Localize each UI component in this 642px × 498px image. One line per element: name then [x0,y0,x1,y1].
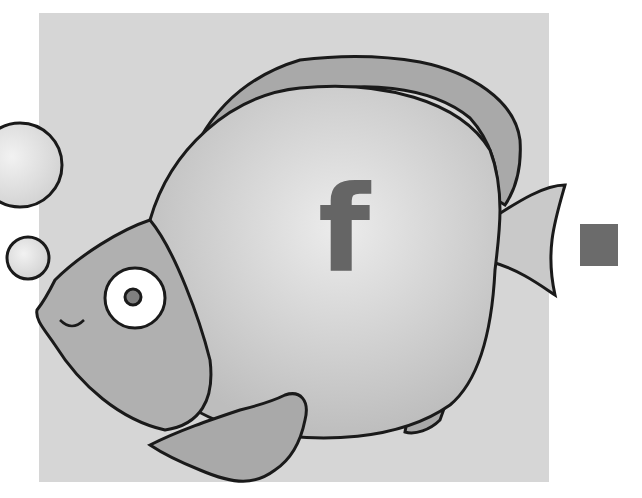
letter-f: f [318,170,370,290]
marker-square [580,224,618,266]
fish-eye [105,268,165,328]
bubble-large [0,123,62,207]
bubbles [0,123,62,279]
bubble-small [7,237,49,279]
